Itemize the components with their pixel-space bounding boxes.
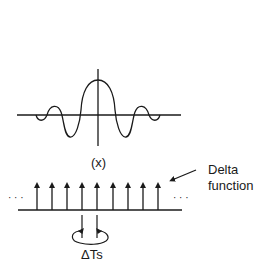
spacing-label: ΔTs	[81, 247, 103, 262]
callout-label-line1: Delta	[208, 162, 238, 177]
callout-arrow	[172, 170, 196, 180]
diagram-canvas	[0, 0, 258, 266]
impulse-train	[18, 185, 182, 210]
right-ellipsis: · · ·	[173, 190, 189, 205]
spacing-indicator	[72, 215, 108, 244]
sinc-label: (x)	[91, 155, 106, 170]
callout-label-line2: function	[208, 178, 254, 193]
left-ellipsis: · · ·	[8, 190, 24, 205]
rotation-arrow-icon	[72, 231, 108, 244]
sinc-plot	[17, 69, 181, 146]
